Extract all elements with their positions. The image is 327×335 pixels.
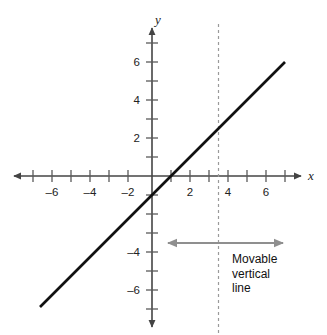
x-tick-label: –6: [46, 186, 59, 198]
y-tick-label: –4: [119, 246, 140, 258]
y-tick-label: 6: [125, 56, 140, 68]
x-tick-label: 6: [263, 186, 269, 198]
x-axis-label: x: [308, 168, 314, 184]
movable-line-annotation-label: Movable vertical line: [232, 252, 277, 296]
graph-figure: y x –6 –4 –2 2 4 6 6 4 2 –4 –6 Movable v…: [0, 0, 327, 335]
y-tick-label: 4: [125, 94, 140, 106]
y-axis: [146, 28, 158, 327]
x-tick-label: –2: [122, 186, 135, 198]
y-axis-label: y: [155, 12, 161, 28]
y-tick-label: –6: [119, 284, 140, 296]
x-tick-label: 2: [187, 186, 193, 198]
x-axis: [14, 170, 301, 182]
y-tick-label: 2: [125, 132, 140, 144]
x-tick-label: –4: [84, 186, 97, 198]
coordinate-plane: [0, 0, 327, 335]
x-tick-label: 4: [225, 186, 231, 198]
